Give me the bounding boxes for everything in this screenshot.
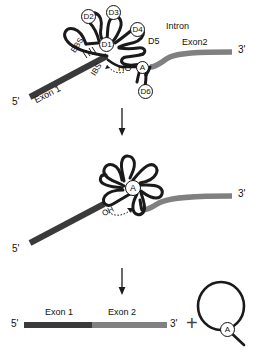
five-prime-label-bottom: 5' — [11, 319, 18, 329]
down-arrow-step-2 — [119, 268, 126, 295]
exon1-bar-bottom — [24, 322, 92, 328]
intron-label: Intron — [166, 22, 189, 31]
branch-a-circle-bottom: A — [220, 322, 235, 337]
five-prime-label-top: 5' — [12, 97, 19, 107]
branch-dash-label: - — [131, 63, 134, 72]
figure-canvas: Exon 1 5' Exon2 3' Intron EBS IBS HO - A… — [0, 0, 265, 352]
exon2-label-top: Exon2 — [182, 38, 208, 47]
exon1-strand-middle — [30, 204, 104, 243]
domain-d4-label: D4 — [130, 22, 145, 37]
domain-d1-label: D1 — [99, 37, 114, 52]
down-arrow-step-1 — [119, 108, 126, 136]
domain-d3-label: D3 — [106, 5, 121, 20]
released-lariat-bottom — [198, 282, 244, 345]
three-prime-label-middle: 3' — [238, 189, 245, 199]
branch-a-circle-top: A — [136, 61, 149, 74]
domain-d6-label: D6 — [138, 84, 153, 99]
exon1-label-bottom: Exon 1 — [45, 308, 73, 317]
branch-a-circle-middle: A — [125, 180, 141, 196]
three-prime-label-top: 3' — [238, 45, 245, 55]
three-prime-label-bottom: 3' — [170, 319, 177, 329]
branch-attack-arrowhead-top — [105, 65, 110, 69]
splicing-diagram-svg — [0, 0, 265, 352]
domain-d5-label: D5 — [148, 37, 160, 46]
exon2-label-bottom: Exon 2 — [108, 308, 136, 317]
plus-sign-bottom: + — [186, 313, 198, 333]
exon2-bar-bottom — [92, 322, 167, 328]
domain-d2-label: D2 — [81, 9, 96, 24]
five-prime-label-middle: 5' — [12, 244, 19, 254]
branch-ho-label: HO — [118, 64, 132, 73]
exon2-strand-top — [150, 52, 232, 67]
